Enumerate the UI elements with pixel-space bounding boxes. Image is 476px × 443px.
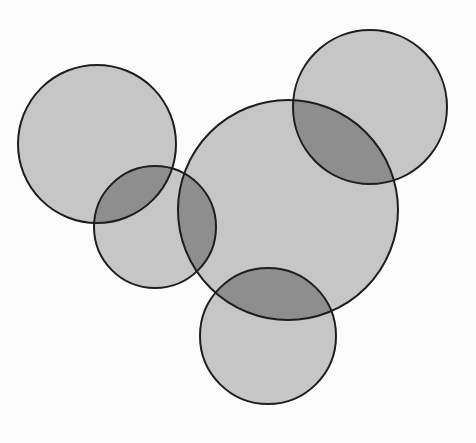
overlapping-circles-diagram	[0, 0, 476, 443]
